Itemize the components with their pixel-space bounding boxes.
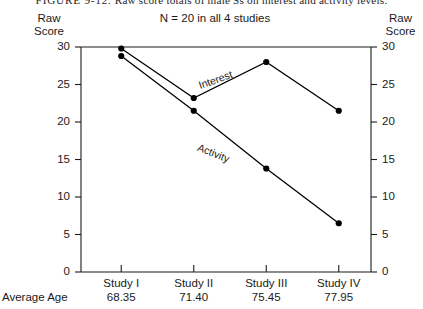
data-point-interest xyxy=(336,108,342,114)
y-tick-label: 25 xyxy=(48,79,70,91)
data-point-activity xyxy=(191,108,197,114)
y-tick-label: 25 xyxy=(382,79,404,91)
data-point-activity xyxy=(118,53,124,59)
y-tick-label: 10 xyxy=(382,191,404,203)
y-tick-label: 30 xyxy=(382,41,404,53)
y-tick-label: 30 xyxy=(48,41,70,53)
y-tick-label: 15 xyxy=(382,154,404,166)
y-tick-label: 20 xyxy=(382,116,404,128)
data-point-activity xyxy=(336,220,342,226)
y-tick-label: 0 xyxy=(382,266,404,278)
y-tick-label: 5 xyxy=(48,229,70,241)
data-point-activity xyxy=(263,165,269,171)
average-age-row-label: Average Age xyxy=(2,291,68,303)
data-point-interest xyxy=(118,45,124,51)
y-tick-label: 5 xyxy=(382,229,404,241)
line-chart: Raw Score Raw Score N = 20 in all 4 stud… xyxy=(0,0,423,309)
y-tick-label: 20 xyxy=(48,116,70,128)
series-line-activity xyxy=(121,56,339,223)
data-point-interest xyxy=(263,59,269,65)
y-tick-label: 15 xyxy=(48,154,70,166)
y-tick-label: 0 xyxy=(48,266,70,278)
x-category-label: Study IV xyxy=(296,277,382,289)
average-age-value: 77.95 xyxy=(296,291,382,303)
data-point-interest xyxy=(191,95,197,101)
y-tick-label: 10 xyxy=(48,191,70,203)
